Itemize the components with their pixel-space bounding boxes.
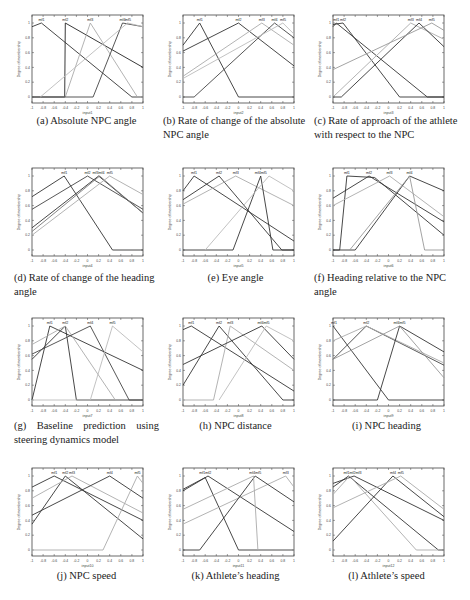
y-tick-label: 1 — [329, 21, 331, 25]
y-tick-label: 0.8 — [176, 489, 181, 493]
y-tick-label: 0.8 — [326, 36, 331, 40]
y-tick-label: 0 — [329, 95, 331, 99]
y-tick-label: 0.6 — [25, 204, 30, 208]
mf-label: mf4 — [407, 171, 413, 175]
x-tick-label: 0.6 — [419, 259, 424, 263]
membership-function-mf3 — [333, 176, 444, 217]
plot-frame — [333, 15, 444, 103]
x-tick-label: 1 — [293, 106, 295, 110]
membership-function-mf1 — [333, 176, 444, 250]
membership-function-mf1 — [32, 326, 143, 400]
x-tick-label: 0.6 — [118, 259, 123, 263]
mf-label: mf1 — [61, 171, 67, 175]
x-tick-label: 0.6 — [419, 106, 424, 110]
mf-label: mf4mf5 — [255, 171, 267, 175]
x-tick-label: 0.8 — [431, 259, 436, 263]
x-tick-label: -0.2 — [374, 409, 380, 413]
membership-function-mf1 — [333, 476, 444, 550]
mf-label: mf2 — [366, 171, 372, 175]
x-tick-label: 0.2 — [96, 106, 101, 110]
x-tick-label: 0.6 — [419, 409, 424, 413]
y-tick-label: 0.4 — [176, 66, 181, 70]
y-axis-label: Degree of membership — [168, 344, 172, 381]
x-axis-label: input6 — [384, 264, 394, 268]
x-tick-label: 1 — [443, 259, 445, 263]
y-tick-label: 0.4 — [176, 519, 181, 523]
y-tick-label: 0.4 — [25, 66, 30, 70]
x-tick-label: 1 — [443, 409, 445, 413]
mf-label: mf2 — [236, 18, 242, 22]
x-tick-label: 0.4 — [258, 409, 263, 413]
y-axis-label: Degree of membership — [17, 494, 21, 531]
mf-label: mf5 — [107, 171, 113, 175]
y-tick-label: 0.8 — [176, 339, 181, 343]
mf-label: mf4 — [272, 18, 278, 22]
y-tick-label: 0.2 — [25, 383, 30, 387]
x-tick-label: -0.4 — [363, 559, 369, 563]
membership-function-mf3 — [32, 326, 143, 400]
caption-k: (k) Athlete’s heading — [163, 569, 308, 583]
membership-function-mf2 — [183, 23, 294, 66]
membership-plot-e: -1-0.8-0.6-0.4-0.200.20.40.60.8100.20.40… — [161, 160, 321, 280]
x-tick-label: 0 — [238, 409, 240, 413]
membership-plot-k: -1-0.8-0.6-0.4-0.200.20.40.60.8100.20.40… — [161, 460, 321, 580]
x-tick-label: 0.6 — [118, 409, 123, 413]
x-tick-label: -0.6 — [51, 409, 57, 413]
membership-function-mf2 — [32, 476, 143, 539]
x-tick-label: -0.8 — [341, 409, 347, 413]
y-tick-label: 0.8 — [326, 189, 331, 193]
membership-function-mf5 — [183, 476, 294, 550]
y-tick-label: 0.2 — [176, 533, 181, 537]
mf-label: mf4 — [87, 321, 93, 325]
y-tick-label: 0.4 — [25, 519, 30, 523]
x-tick-label: -0.4 — [363, 259, 369, 263]
x-tick-label: -0.4 — [62, 259, 68, 263]
y-tick-label: 0 — [329, 248, 331, 252]
x-tick-label: -0.8 — [191, 106, 197, 110]
x-tick-label: -0.4 — [363, 106, 369, 110]
x-tick-label: -0.2 — [73, 409, 79, 413]
y-tick-label: 0.6 — [176, 354, 181, 358]
x-tick-label: -0.8 — [341, 259, 347, 263]
membership-function-mf2 — [32, 23, 143, 97]
mf-label: mf2 — [340, 18, 346, 22]
mf-label: mf1 — [197, 18, 203, 22]
membership-plot-h: -1-0.8-0.6-0.4-0.200.20.40.60.8100.20.40… — [161, 310, 321, 430]
mf-label: mf1 — [344, 171, 350, 175]
membership-function-mf4 — [333, 176, 444, 250]
membership-function-mf5 — [205, 176, 294, 250]
y-tick-label: 0.8 — [176, 36, 181, 40]
x-tick-label: -0.6 — [51, 259, 57, 263]
x-tick-label: 0.6 — [269, 559, 274, 563]
mf-label: mf5 — [398, 471, 404, 475]
y-tick-label: 1 — [329, 474, 331, 478]
y-tick-label: 0 — [28, 248, 30, 252]
x-tick-label: 0.2 — [247, 259, 252, 263]
membership-function-mf5 — [183, 23, 294, 79]
y-tick-label: 0.4 — [176, 219, 181, 223]
membership-function-mf5 — [333, 23, 444, 70]
mf-label: mf2 — [62, 321, 68, 325]
x-tick-label: -0.2 — [73, 259, 79, 263]
mf-label: mf3 — [233, 171, 239, 175]
y-tick-label: 0.8 — [176, 189, 181, 193]
x-tick-label: -0.6 — [352, 559, 358, 563]
mf-label: mf3 — [387, 171, 393, 175]
x-tick-label: 0.4 — [258, 106, 263, 110]
x-tick-label: -0.6 — [51, 106, 57, 110]
x-tick-label: 0.4 — [107, 559, 112, 563]
y-axis-label: Degree of membership — [168, 194, 172, 231]
mf-label: mf3 — [227, 321, 233, 325]
membership-plot-i: -1-0.8-0.6-0.4-0.200.20.40.60.8100.20.40… — [311, 310, 470, 430]
membership-function-mf2 — [333, 176, 444, 222]
membership-function-mf2 — [183, 476, 294, 532]
mf-label: mf3 — [283, 471, 289, 475]
x-tick-label: -0.6 — [202, 409, 208, 413]
x-tick-label: 0 — [388, 106, 390, 110]
x-tick-label: -0.8 — [40, 559, 46, 563]
x-tick-label: -1 — [181, 409, 184, 413]
caption-d: (d) Rate of change of the heading angle — [14, 271, 159, 299]
x-tick-label: -0.8 — [341, 559, 347, 563]
y-tick-label: 0.2 — [176, 383, 181, 387]
x-tick-label: -1 — [331, 106, 334, 110]
